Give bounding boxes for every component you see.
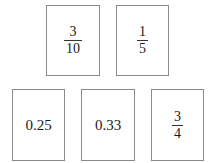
card-3-4: 3 4 xyxy=(151,89,204,161)
denominator: 10 xyxy=(64,41,82,56)
fraction: 3 4 xyxy=(172,110,183,141)
fraction: 3 10 xyxy=(64,25,82,56)
decimal-value: 0.25 xyxy=(25,117,51,134)
numerator: 3 xyxy=(172,110,183,125)
fraction: 1 5 xyxy=(137,25,148,56)
card-0-33: 0.33 xyxy=(81,89,135,161)
denominator: 5 xyxy=(137,41,148,56)
card-1-5: 1 5 xyxy=(116,5,169,76)
card-3-10: 3 10 xyxy=(46,5,100,76)
denominator: 4 xyxy=(172,126,183,141)
numerator: 3 xyxy=(68,25,79,40)
decimal-value: 0.33 xyxy=(95,117,121,134)
card-0-25: 0.25 xyxy=(12,89,65,161)
numerator: 1 xyxy=(137,25,148,40)
